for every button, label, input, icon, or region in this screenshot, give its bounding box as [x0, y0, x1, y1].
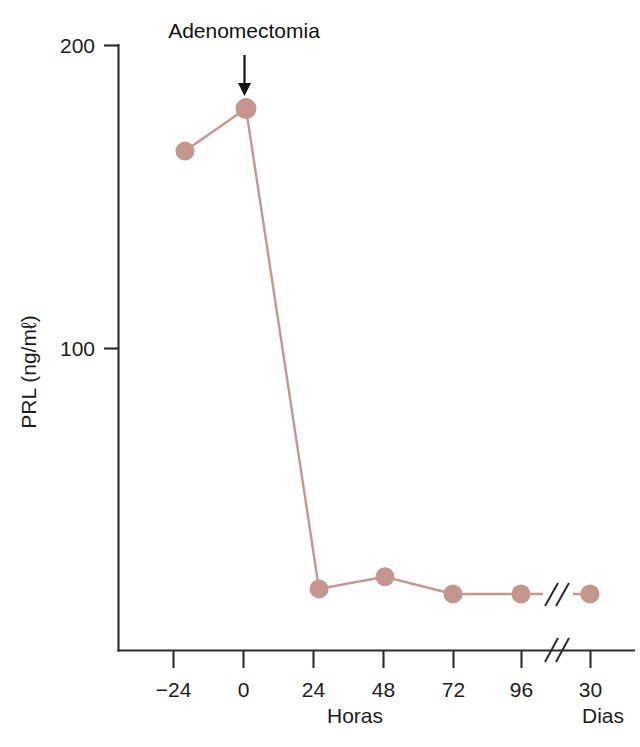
x-tick-label-24: 24: [302, 678, 326, 701]
axes-group: [119, 45, 635, 651]
x-tick-label-30: 30: [579, 678, 602, 701]
series-line-main: [185, 109, 521, 594]
x-axis-title-horas: Horas: [327, 704, 383, 727]
x-tick-label-0: 0: [238, 678, 250, 701]
y-ticks-group: 200 100: [60, 34, 119, 360]
data-point-marker: [512, 585, 531, 604]
y-axis-title: PRL (ng/mℓ): [17, 315, 40, 428]
x-tick-label-48: 48: [372, 678, 395, 701]
series-prl: [176, 98, 600, 611]
data-point-marker: [376, 567, 395, 586]
x-ticks-group: −24 0 24 48 72 96 30: [156, 638, 602, 701]
prl-line-chart: 200 100 PRL (ng/mℓ) −24 0 24 48 72 96: [0, 0, 640, 747]
data-point-marker: [310, 579, 329, 598]
annotation-adenomectomia: Adenomectomia: [168, 19, 320, 96]
chart-figure: 200 100 PRL (ng/mℓ) −24 0 24 48 72 96: [0, 0, 640, 747]
series-break-mask: [543, 583, 573, 611]
data-point-marker: [581, 585, 600, 604]
annotation-label: Adenomectomia: [168, 19, 320, 42]
x-axis-title-dias: Dias: [582, 704, 624, 727]
y-tick-label-200: 200: [60, 34, 95, 57]
data-point-marker: [176, 142, 195, 161]
x-tick-label-72: 72: [442, 678, 465, 701]
data-point-marker: [236, 98, 257, 119]
data-point-marker: [444, 585, 463, 604]
x-tick-label--24: −24: [156, 678, 192, 701]
arrow-down-icon: [238, 83, 251, 96]
x-tick-label-96: 96: [510, 678, 533, 701]
y-tick-label-100: 100: [60, 337, 95, 360]
